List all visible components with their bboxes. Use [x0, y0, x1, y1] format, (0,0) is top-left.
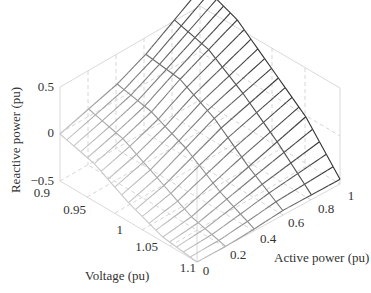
z-axis-label: Reactive power (pu)	[8, 87, 23, 193]
y-tick-0.6: 0.6	[288, 215, 305, 230]
x-tick-1.1: 1.1	[180, 260, 196, 275]
y-tick-0: 0	[203, 263, 210, 278]
x-tick-1.05: 1.05	[135, 239, 158, 254]
x-tick-0.95: 0.95	[63, 202, 86, 217]
z-tick-0: 0	[48, 125, 55, 140]
z-tick-0.5: 0.5	[38, 79, 54, 94]
y-axis-label: Active power (pu)	[274, 250, 369, 265]
voltage-axis: 0.9 0.95 1 1.05 1.1 Voltage (pu)	[34, 185, 196, 283]
z-axis: 0.5 0 −0.5 Reactive power (pu)	[8, 79, 54, 193]
y-tick-0.2: 0.2	[230, 247, 246, 262]
surface-plot: 0.5 0 −0.5 Reactive power (pu) 0.9 0.95 …	[0, 0, 371, 293]
active-power-axis: 0 0.2 0.4 0.6 0.8 1 Active power (pu)	[203, 188, 370, 278]
x-axis-label: Voltage (pu)	[85, 268, 149, 283]
y-tick-0.4: 0.4	[260, 231, 277, 246]
y-tick-0.8: 0.8	[318, 201, 334, 216]
x-tick-1: 1	[117, 222, 124, 237]
x-tick-0.9: 0.9	[34, 185, 50, 200]
y-tick-1: 1	[348, 188, 355, 203]
